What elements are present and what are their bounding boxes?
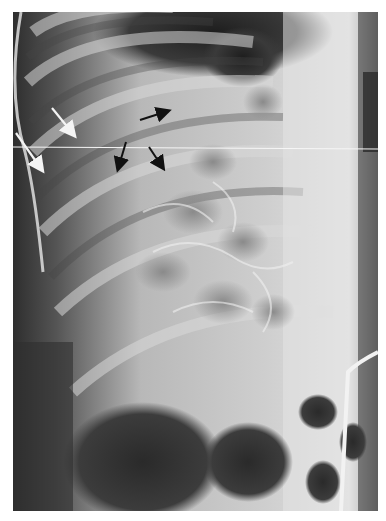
xray-drawing [13,12,378,511]
xray-image [13,12,378,511]
